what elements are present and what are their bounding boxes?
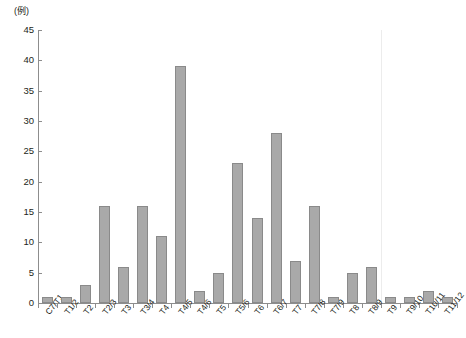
y-axis-tick — [38, 273, 42, 274]
x-axis-tick — [438, 304, 439, 308]
y-axis-tick-label-text: 15 — [8, 207, 34, 217]
y-axis-tick-label: 10 — [4, 237, 34, 247]
plot-faint-vertical-rule — [381, 30, 382, 303]
bar — [309, 206, 320, 303]
bar — [271, 133, 282, 303]
y-axis-tick-label: 45 — [4, 25, 34, 35]
x-axis-tick-label: T2 — [82, 303, 95, 316]
y-axis-tick — [38, 212, 42, 213]
x-axis-tick-label: T3 — [120, 303, 133, 316]
bar — [328, 297, 339, 303]
y-axis-line — [38, 30, 39, 304]
x-axis-tick-label: T8 — [348, 303, 361, 316]
y-axis-tick — [38, 242, 42, 243]
bar — [366, 267, 377, 303]
x-axis-tick — [209, 304, 210, 308]
y-axis-tick — [38, 30, 42, 31]
x-axis-tick — [57, 304, 58, 308]
x-axis-tick-label: T11/12 — [443, 291, 466, 317]
x-axis-tick-label: T9 — [386, 303, 399, 316]
x-axis-tick-label: T5 — [215, 303, 228, 316]
x-axis-tick — [267, 304, 268, 308]
x-axis-tick-label: T7 — [291, 303, 304, 316]
x-axis-tick — [76, 304, 77, 308]
y-axis-tick-label: 40 — [4, 55, 34, 65]
x-axis-tick — [190, 304, 191, 308]
y-axis-tick-label-text: 5 — [8, 268, 34, 278]
x-axis-tick — [419, 304, 420, 308]
y-axis-tick-label-text: 40 — [8, 55, 34, 65]
y-axis-tick-label-text: 35 — [8, 86, 34, 96]
x-axis-tick — [286, 304, 287, 308]
x-axis-tick-label: T6 — [253, 303, 266, 316]
y-axis-tick — [38, 91, 42, 92]
y-axis-tick-label-text: 10 — [8, 237, 34, 247]
y-axis-tick-label-text: 30 — [8, 116, 34, 126]
bar — [156, 236, 167, 303]
x-axis-tick — [343, 304, 344, 308]
y-axis-tick-label: 25 — [4, 146, 34, 156]
x-axis-tick — [400, 304, 401, 308]
y-axis-tick-label-text: 0 — [8, 298, 34, 308]
bar — [61, 297, 72, 303]
bar — [423, 291, 434, 303]
y-axis-tick — [38, 182, 42, 183]
y-axis-tick — [38, 121, 42, 122]
bar — [99, 206, 110, 303]
bar — [213, 273, 224, 303]
bar — [442, 297, 453, 303]
x-axis-tick-label: T4 — [158, 303, 171, 316]
y-axis-tick-label: 35 — [4, 86, 34, 96]
y-axis-tick-label: 15 — [4, 207, 34, 217]
x-axis-tick — [457, 304, 458, 308]
x-axis-tick — [228, 304, 229, 308]
bar — [347, 273, 358, 303]
y-axis-tick-label-text: 25 — [8, 146, 34, 156]
bar — [137, 206, 148, 303]
y-axis-unit-label: (例) — [14, 4, 29, 17]
x-axis-tick — [324, 304, 325, 308]
x-axis-tick — [381, 304, 382, 308]
x-axis-tick — [362, 304, 363, 308]
y-axis-tick-label: 0 — [4, 298, 34, 308]
x-axis-tick — [133, 304, 134, 308]
bar-chart: (例) 051015202530354045 C7/T1T1/2T2T2/3T3… — [0, 0, 466, 338]
bar — [80, 285, 91, 303]
y-axis-tick-label: 30 — [4, 116, 34, 126]
y-axis-tick-label-text: 45 — [8, 25, 34, 35]
x-axis-tick — [171, 304, 172, 308]
y-axis-tick — [38, 151, 42, 152]
bar — [404, 297, 415, 303]
bar — [385, 297, 396, 303]
x-axis-tick — [248, 304, 249, 308]
bar — [194, 291, 205, 303]
x-axis-tick — [38, 304, 39, 308]
y-axis-tick-label: 20 — [4, 177, 34, 187]
y-axis-tick-label-text: 20 — [8, 177, 34, 187]
x-axis-tick — [114, 304, 115, 308]
bar — [42, 297, 53, 303]
bar — [118, 267, 129, 303]
x-axis-tick — [152, 304, 153, 308]
bar — [232, 163, 243, 303]
bar — [252, 218, 263, 303]
bar — [175, 66, 186, 303]
x-axis-tick — [95, 304, 96, 308]
bar — [290, 261, 301, 303]
y-axis-tick — [38, 60, 42, 61]
x-axis-tick — [305, 304, 306, 308]
y-axis-tick-label: 5 — [4, 268, 34, 278]
